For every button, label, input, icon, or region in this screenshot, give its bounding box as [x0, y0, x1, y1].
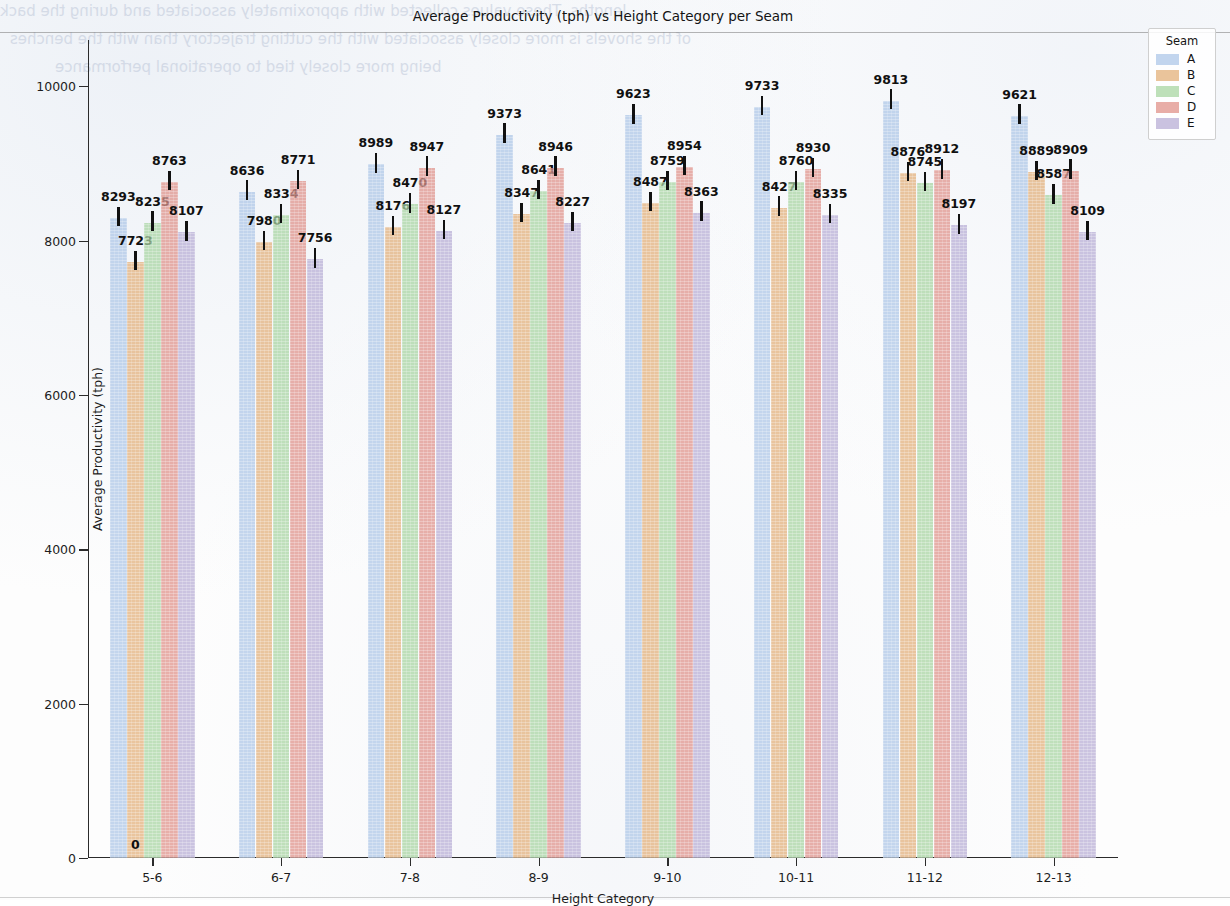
bar-value-label-A-6-7: 8636 — [230, 163, 265, 178]
bar-value-label-D-11-12: 8912 — [924, 141, 959, 156]
bar-value-label-B-12-13: 8889 — [1019, 143, 1054, 158]
bar-A-12-13 — [1011, 116, 1028, 858]
legend: Seam ABCDE — [1148, 28, 1216, 140]
bar-C-11-12 — [917, 183, 934, 858]
bar-value-label-E-8-9: 8227 — [555, 194, 590, 209]
bar-texture — [754, 107, 771, 858]
y-tick — [79, 86, 88, 87]
bar-value-label-D-10-11: 8930 — [796, 140, 831, 155]
bar-D-11-12 — [934, 170, 951, 858]
error-bar-C-7-8 — [409, 193, 411, 213]
bar-D-5-6 — [161, 182, 178, 858]
error-bar-C-8-9 — [537, 180, 539, 200]
bar-C-10-11 — [788, 182, 805, 858]
bar-texture — [693, 213, 710, 858]
y-tick-label: 4000 — [0, 542, 76, 557]
zero-annotation: 0 — [131, 837, 140, 852]
error-bar-E-11-12 — [958, 214, 960, 234]
bar-texture — [547, 168, 564, 858]
bar-texture — [513, 214, 530, 858]
legend-swatch-D — [1156, 102, 1179, 113]
legend-swatch-A — [1156, 54, 1179, 65]
bar-texture — [419, 168, 436, 858]
y-tick-label: 10000 — [0, 79, 76, 94]
y-tick-label: 0 — [0, 851, 76, 866]
bar-E-10-11 — [822, 215, 839, 858]
bar-E-12-13 — [1079, 232, 1096, 858]
x-tick-label: 9-10 — [607, 870, 727, 885]
bar-value-label-C-9-10: 8759 — [650, 153, 685, 168]
error-bar-C-12-13 — [1052, 184, 1054, 204]
x-tick — [281, 858, 282, 866]
error-bar-D-7-8 — [426, 156, 428, 176]
bar-B-7-8 — [385, 227, 402, 858]
bar-value-label-E-10-11: 8335 — [813, 186, 848, 201]
bar-value-label-D-7-8: 8947 — [409, 139, 444, 154]
y-tick — [79, 858, 88, 859]
bar-texture — [805, 169, 822, 858]
error-bar-B-10-11 — [778, 196, 780, 216]
error-bar-E-12-13 — [1086, 221, 1088, 241]
error-bar-A-9-10 — [632, 104, 634, 124]
bar-D-9-10 — [676, 167, 693, 858]
error-bar-E-5-6 — [185, 221, 187, 241]
error-bar-B-7-8 — [392, 216, 394, 236]
legend-swatch-B — [1156, 70, 1179, 81]
bar-texture — [900, 173, 917, 858]
bar-A-9-10 — [625, 115, 642, 858]
y-tick-label: 8000 — [0, 233, 76, 248]
bar-A-6-7 — [239, 192, 256, 858]
bar-E-5-6 — [178, 232, 195, 858]
bar-C-8-9 — [530, 191, 547, 858]
legend-item-A[interactable]: A — [1156, 52, 1208, 66]
error-bar-C-9-10 — [666, 171, 668, 191]
bar-A-7-8 — [368, 164, 385, 858]
bar-C-5-6 — [144, 223, 161, 858]
bar-texture — [256, 242, 273, 858]
x-axis-label: Height Category — [88, 891, 1118, 906]
error-bar-E-7-8 — [443, 220, 445, 240]
bar-texture — [564, 223, 581, 858]
bar-B-8-9 — [513, 214, 530, 858]
legend-item-D[interactable]: D — [1156, 100, 1208, 114]
bar-C-6-7 — [273, 215, 290, 858]
bar-B-5-6 — [127, 262, 144, 858]
y-tick — [79, 395, 88, 396]
bar-texture — [530, 191, 547, 858]
error-bar-C-10-11 — [795, 171, 797, 191]
legend-item-C[interactable]: C — [1156, 84, 1208, 98]
bar-E-7-8 — [436, 231, 453, 858]
error-bar-A-5-6 — [117, 207, 119, 227]
bar-value-label-D-12-13: 8909 — [1053, 142, 1088, 157]
bar-value-label-C-11-12: 8745 — [907, 154, 942, 169]
legend-rows: ABCDE — [1156, 52, 1208, 130]
bar-texture — [771, 208, 788, 858]
legend-title: Seam — [1156, 34, 1208, 48]
y-axis — [88, 40, 89, 858]
bar-value-label-C-10-11: 8760 — [779, 153, 814, 168]
error-bar-D-12-13 — [1069, 159, 1071, 179]
bar-texture — [934, 170, 951, 858]
error-bar-C-11-12 — [924, 172, 926, 192]
bar-value-label-A-5-6: 8293 — [101, 189, 136, 204]
y-tick-label: 6000 — [0, 387, 76, 402]
bar-texture — [642, 203, 659, 858]
bar-D-8-9 — [547, 168, 564, 858]
legend-item-B[interactable]: B — [1156, 68, 1208, 82]
legend-label-A: A — [1187, 52, 1195, 66]
x-tick — [667, 858, 668, 866]
bar-texture — [144, 223, 161, 858]
error-bar-A-8-9 — [503, 123, 505, 143]
error-bar-D-11-12 — [941, 159, 943, 179]
bar-D-7-8 — [419, 168, 436, 858]
bar-texture — [127, 262, 144, 858]
bar-texture — [1028, 172, 1045, 858]
legend-label-E: E — [1187, 116, 1195, 130]
error-bar-A-6-7 — [246, 180, 248, 200]
bar-value-label-E-12-13: 8109 — [1070, 203, 1105, 218]
bar-value-label-A-10-11: 9733 — [745, 78, 780, 93]
bar-B-6-7 — [256, 242, 273, 858]
bar-D-6-7 — [290, 181, 307, 858]
legend-item-E[interactable]: E — [1156, 116, 1208, 130]
bar-C-9-10 — [659, 182, 676, 858]
